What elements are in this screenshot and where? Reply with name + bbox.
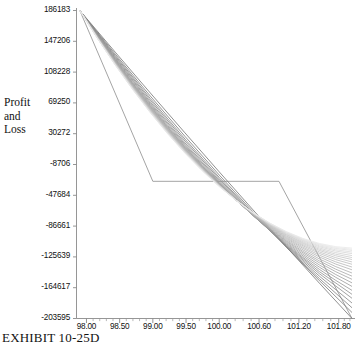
- plot-area: [0, 0, 359, 343]
- value-curve: [80, 11, 352, 304]
- profit-loss-chart-figure: Profit and Loss 186183147206108228692503…: [0, 0, 359, 343]
- value-curve: [80, 11, 352, 270]
- value-curve: [80, 11, 352, 299]
- value-curve: [80, 11, 352, 260]
- value-curve: [80, 11, 352, 277]
- value-curve: [80, 11, 352, 256]
- value-curve: [80, 11, 352, 273]
- value-curve: [80, 11, 352, 295]
- value-curve: [80, 11, 352, 250]
- exhibit-caption: EXHIBIT 10-25D: [2, 330, 100, 343]
- value-curve: [80, 11, 352, 268]
- value-curve: [80, 11, 352, 249]
- value-curve: [80, 11, 352, 265]
- value-curve: [80, 11, 352, 254]
- value-curve: [80, 11, 352, 258]
- value-curve: [80, 11, 352, 253]
- value-curve: [80, 11, 352, 262]
- value-curve: [80, 11, 352, 280]
- value-curve: [80, 11, 352, 251]
